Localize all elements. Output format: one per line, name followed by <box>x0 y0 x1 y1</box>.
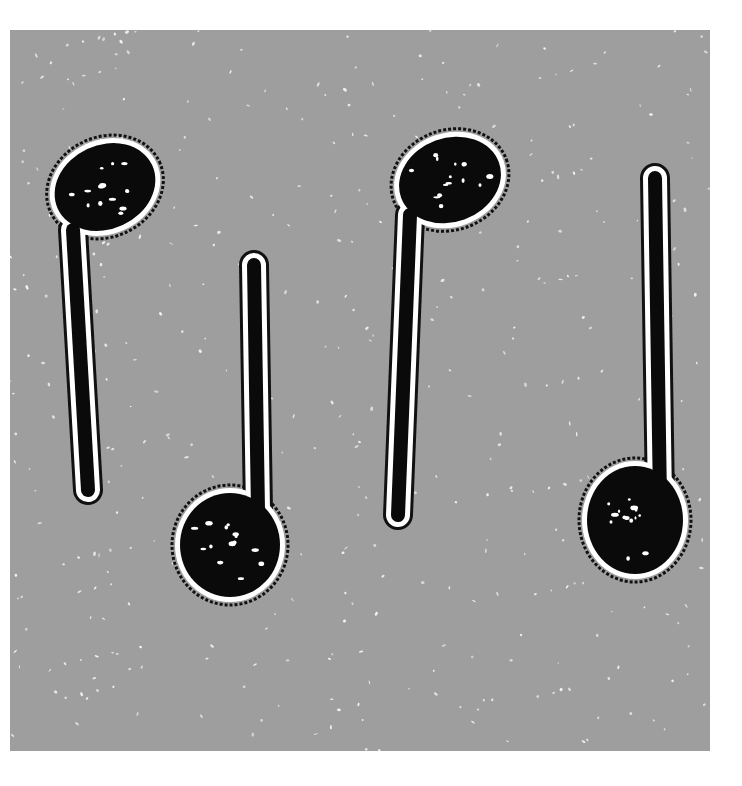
music-notes-image <box>10 30 710 751</box>
photo <box>10 30 710 751</box>
note-1 <box>29 116 180 490</box>
note-4 <box>579 178 691 582</box>
note-2 <box>172 265 288 605</box>
note-3 <box>377 112 524 515</box>
